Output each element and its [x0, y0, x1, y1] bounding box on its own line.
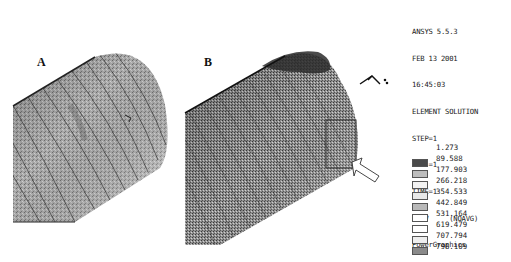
scale-value: 796.109: [436, 242, 467, 251]
software-version: ANSYS 5.5.3: [412, 28, 478, 37]
scale-value: 442.849: [436, 198, 467, 207]
panel-label-b: B: [204, 55, 212, 70]
coordinate-triad-icon: [360, 76, 388, 84]
color-swatch: [412, 159, 428, 167]
color-swatch: [412, 181, 428, 189]
cylinder-model-b: [160, 51, 358, 245]
scale-value: 266.218: [436, 176, 467, 185]
color-swatch: [412, 170, 428, 178]
panel-label-a: A: [37, 55, 46, 70]
color-swatch: [412, 214, 428, 222]
scale-value: 89.588: [436, 154, 463, 163]
pointer-arrow-icon: [352, 158, 379, 182]
run-time: 16:45:03: [412, 81, 478, 90]
scale-value: 619.479: [436, 220, 467, 229]
color-swatch: [412, 225, 428, 233]
scale-value: 1.273: [436, 143, 458, 152]
color-swatch: [412, 192, 428, 200]
scale-value: 531.164: [436, 209, 467, 218]
scale-value: 177.903: [436, 165, 467, 174]
cylinder-model-a: [0, 52, 168, 222]
scale-value: 354.533: [436, 187, 467, 196]
solution-type: ELEMENT SOLUTION: [412, 108, 478, 117]
scale-value: 707.794: [436, 231, 467, 240]
color-swatch: [412, 247, 428, 255]
color-swatch: [412, 236, 428, 244]
color-swatch: [412, 203, 428, 211]
run-date: FEB 13 2001: [412, 55, 478, 64]
